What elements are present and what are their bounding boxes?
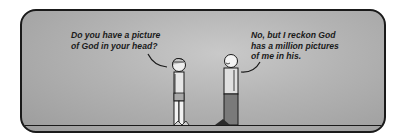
speech-tail-left <box>148 54 167 67</box>
figures-illustration <box>22 11 384 131</box>
adult-figure <box>215 55 238 126</box>
comic-panel: Do you have a picture of God in your hea… <box>20 9 386 133</box>
child-figure <box>173 58 190 125</box>
speech-tail-right <box>241 62 260 72</box>
